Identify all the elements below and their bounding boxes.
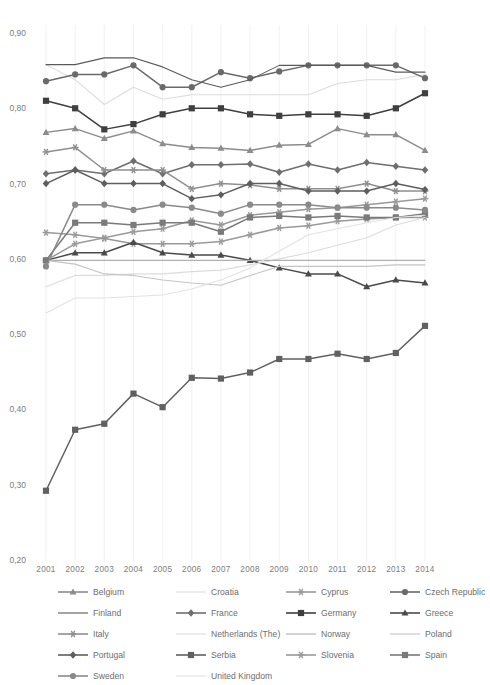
- data-point-marker: [130, 391, 136, 397]
- legend-item-finland[interactable]: Finland: [56, 605, 174, 621]
- data-point-marker: [218, 69, 224, 75]
- data-point-marker: [130, 207, 136, 213]
- x-axis-tick-label: 2014: [415, 565, 435, 574]
- data-point-marker: [43, 488, 49, 494]
- legend-item-greece[interactable]: Greece: [388, 605, 490, 621]
- data-point-marker: [276, 68, 282, 74]
- data-point-marker: [101, 220, 107, 226]
- legend-item-label: United Kingdom: [211, 670, 272, 682]
- legend-item-slovenia[interactable]: Slovenia: [284, 647, 388, 663]
- data-point-marker: [247, 214, 253, 220]
- legend-item-label: Norway: [321, 628, 350, 640]
- data-point-marker: [334, 166, 341, 173]
- x-axis-tick-label: 2013: [386, 565, 406, 574]
- y-axis-tick-label: 0,20: [9, 555, 26, 565]
- data-point-marker: [393, 205, 399, 211]
- legend-item-croatia[interactable]: Croatia: [174, 584, 284, 600]
- data-point-marker: [218, 211, 224, 217]
- data-point-marker: [276, 169, 283, 176]
- data-point-marker: [305, 160, 312, 167]
- data-point-marker: [334, 111, 340, 117]
- data-point-marker: [298, 652, 305, 658]
- data-point-marker: [72, 202, 78, 208]
- series-lines: [43, 58, 429, 494]
- series-line: [46, 65, 425, 105]
- legend-swatch-square-icon: [174, 649, 208, 661]
- legend-swatch-line-icon: [56, 607, 90, 619]
- data-point-marker: [130, 180, 137, 187]
- legend-item-united-kingdom[interactable]: United Kingdom: [174, 668, 284, 684]
- legend-swatch-triangle-icon: [56, 586, 90, 598]
- data-point-marker: [130, 222, 136, 228]
- data-point-marker: [298, 610, 304, 616]
- data-point-marker: [247, 369, 253, 375]
- legend-item-label: Cyprus: [321, 586, 348, 598]
- legend-item-netherlands-the[interactable]: Netherlands (The): [174, 626, 284, 642]
- legend-swatch-triangle-icon: [388, 607, 422, 619]
- data-point-marker: [364, 205, 370, 211]
- legend-swatch-circle-icon: [56, 670, 90, 682]
- data-point-marker: [159, 180, 166, 187]
- legend-item-norway[interactable]: Norway: [284, 626, 388, 642]
- series-line: [46, 93, 425, 129]
- data-point-marker: [188, 652, 194, 658]
- data-point-marker: [130, 239, 137, 245]
- data-point-marker: [393, 105, 399, 111]
- data-point-marker: [43, 180, 50, 187]
- legend-swatch-diamond-icon: [56, 649, 90, 661]
- legend-item-france[interactable]: France: [174, 605, 284, 621]
- legend-item-label: Serbia: [211, 649, 236, 661]
- x-axis-tick-label: 2005: [153, 565, 173, 574]
- data-point-marker: [247, 202, 253, 208]
- series-cyprus: [43, 214, 429, 246]
- legend-item-sweden[interactable]: Sweden: [56, 668, 174, 684]
- legend-item-poland[interactable]: Poland: [388, 626, 490, 642]
- data-point-marker: [189, 205, 195, 211]
- legend-swatch-line-icon: [388, 628, 422, 640]
- data-point-marker: [160, 111, 166, 117]
- data-point-marker: [72, 166, 79, 173]
- series-italy: [43, 144, 429, 194]
- data-point-marker: [70, 673, 76, 679]
- data-point-marker: [189, 375, 195, 381]
- series-poland: [46, 260, 425, 285]
- data-point-marker: [276, 202, 282, 208]
- legend-item-label: Croatia: [211, 586, 239, 598]
- x-axis-tick-label: 2004: [124, 565, 144, 574]
- legend-item-czech-republic[interactable]: Czech Republic: [388, 584, 490, 600]
- x-axis-tick-label: 2006: [182, 565, 202, 574]
- series-united-kingdom: [46, 215, 425, 313]
- legend-item-italy[interactable]: Italy: [56, 626, 174, 642]
- data-point-marker: [363, 187, 370, 194]
- legend-item-spain[interactable]: Spain: [388, 647, 490, 663]
- data-point-marker: [101, 202, 107, 208]
- data-point-marker: [130, 121, 136, 127]
- data-point-marker: [393, 180, 400, 187]
- legend-item-serbia[interactable]: Serbia: [174, 647, 284, 663]
- data-point-marker: [247, 160, 254, 167]
- data-point-marker: [101, 421, 107, 427]
- data-point-marker: [188, 195, 195, 202]
- data-point-marker: [393, 163, 400, 170]
- data-point-marker: [422, 186, 429, 193]
- y-axis-tick-label: 0,80: [9, 103, 26, 113]
- data-point-marker: [422, 166, 429, 173]
- legend-item-belgium[interactable]: Belgium: [56, 584, 174, 600]
- data-point-marker: [189, 84, 195, 90]
- x-axis-tick-label: 2010: [299, 565, 319, 574]
- data-point-marker: [72, 427, 78, 433]
- data-point-marker: [276, 213, 282, 219]
- legend-item-portugal[interactable]: Portugal: [56, 647, 174, 663]
- x-axis-labels: 2001200220032004200520062007200820092010…: [36, 565, 435, 574]
- legend-item-cyprus[interactable]: Cyprus: [284, 584, 388, 600]
- data-point-marker: [305, 111, 311, 117]
- y-axis-labels: 0,900,800,700,600,500,400,300,20: [9, 28, 26, 565]
- data-point-marker: [364, 214, 370, 220]
- x-axis-tick-label: 2008: [240, 565, 260, 574]
- legend-item-label: Spain: [425, 649, 447, 661]
- data-point-marker: [334, 125, 341, 131]
- legend-swatch-line-icon: [174, 670, 208, 682]
- data-point-marker: [188, 609, 195, 616]
- data-point-marker: [43, 98, 49, 104]
- legend-item-germany[interactable]: Germany: [284, 605, 388, 621]
